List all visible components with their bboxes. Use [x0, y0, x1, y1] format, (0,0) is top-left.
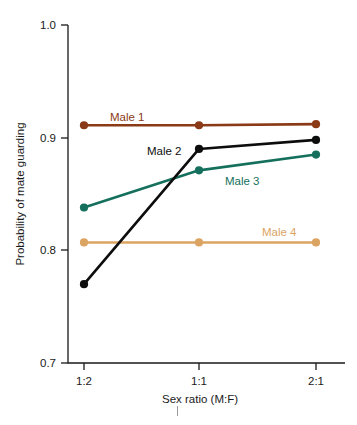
- x-axis-title: Sex ratio (M:F): [162, 393, 238, 405]
- data-point-male3-1:1: [195, 166, 203, 174]
- series-label-male-3: Male 3: [225, 175, 260, 187]
- data-point-male4-1:1: [195, 238, 203, 246]
- axis-lines: [68, 25, 345, 363]
- data-point-male3-1:2: [80, 203, 88, 211]
- caption-tick-mark: [177, 406, 178, 416]
- series-line-male-2: [84, 140, 316, 284]
- x-tick-label-1-2: 1:2: [76, 375, 92, 387]
- y-tick-label-1.0: 1.0: [40, 19, 56, 31]
- data-point-male1-1:2: [80, 121, 88, 129]
- series-label-male-1: Male 1: [110, 111, 145, 123]
- data-point-male4-2:1: [312, 238, 320, 246]
- data-point-male2-2:1: [312, 136, 320, 144]
- x-tick-label-1-1: 1:1: [191, 375, 207, 387]
- data-point-male2-1:1: [195, 145, 203, 153]
- data-point-male3-2:1: [312, 150, 320, 158]
- x-tick-labels-group: 1:2 1:1 2:1: [76, 375, 324, 387]
- y-tick-labels-group: 1.0 0.9 0.8 0.7: [40, 19, 56, 369]
- y-tick-label-0.9: 0.9: [40, 132, 56, 144]
- series-male-3: [80, 150, 320, 211]
- line-chart: 1.0 0.9 0.8 0.7 1:2 1:1 2:1 Sex ratio (M…: [0, 0, 357, 425]
- x-tick-label-2-1: 2:1: [308, 375, 324, 387]
- axes-group: [61, 25, 345, 370]
- y-tick-label-0.8: 0.8: [40, 244, 56, 256]
- y-axis-title: Probability of mate guarding: [14, 122, 26, 265]
- series-label-male-2: Male 2: [147, 145, 182, 157]
- data-point-male2-1:2: [80, 280, 88, 288]
- data-point-male1-1:1: [195, 121, 203, 129]
- chart-figure: 1.0 0.9 0.8 0.7 1:2 1:1 2:1 Sex ratio (M…: [0, 0, 357, 425]
- data-point-male4-1:2: [80, 238, 88, 246]
- data-point-male1-2:1: [312, 120, 320, 128]
- series-line-male-3: [84, 155, 316, 208]
- series-label-male-4: Male 4: [262, 226, 297, 238]
- y-tick-label-0.7: 0.7: [40, 357, 56, 369]
